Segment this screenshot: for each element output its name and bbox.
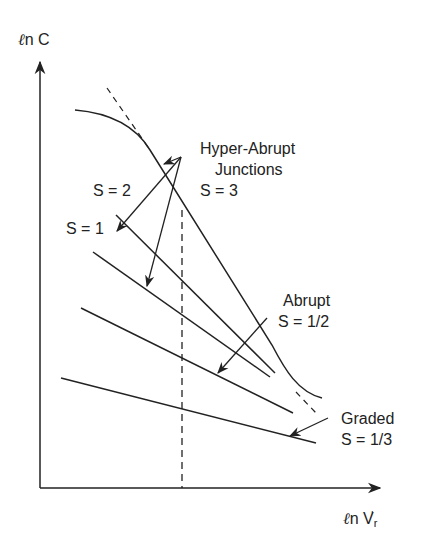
abrupt-label: Abrupt S = 1/2 [283,290,330,332]
axes [40,62,380,488]
capacitance-voltage-diagram [0,0,434,547]
graded-label: Graded S = 1/3 [341,408,394,450]
s2-label: S = 2 [93,182,131,200]
arrow-to-graded [290,418,328,436]
s1-label: S = 1 [66,220,104,238]
line-graded [61,378,316,443]
y-axis-label: ℓn C [18,31,50,49]
hyper-abrupt-label: Hyper-Abrupt Junctions S = 3 [200,138,295,201]
line-s2 [116,215,275,373]
x-axis-label: ℓn Vr' [343,506,373,532]
